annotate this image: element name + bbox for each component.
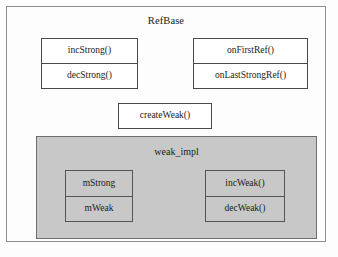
diagram-canvas: RefBase incStrong() decStrong() onFirstR… (0, 0, 338, 257)
member-box-weak-impl-fields: mStrong mWeak (65, 170, 133, 222)
member-row-onlaststrongref: onLastStrongRef() (194, 63, 307, 88)
weak-impl-class-panel: weak_impl mStrong mWeak incWeak() decWea… (36, 136, 317, 239)
weak-impl-class-title: weak_impl (37, 146, 316, 157)
member-box-strong-ref-ops: incStrong() decStrong() (41, 38, 138, 89)
member-row-mstrong: mStrong (66, 171, 132, 196)
member-row-onfirstref: onFirstRef() (194, 39, 307, 63)
member-row-decweak: decWeak() (206, 196, 284, 222)
member-box-weak-ref-ops: incWeak() decWeak() (205, 170, 285, 222)
member-row-incweak: incWeak() (206, 171, 284, 196)
member-row-createweak: createWeak() (119, 104, 211, 128)
member-box-create-weak-op: createWeak() (118, 103, 212, 129)
refbase-class-box: RefBase incStrong() decStrong() onFirstR… (6, 6, 326, 242)
member-row-decstrong: decStrong() (42, 63, 137, 88)
member-row-mweak: mWeak (66, 196, 132, 222)
member-row-incstrong: incStrong() (42, 39, 137, 63)
refbase-class-title: RefBase (7, 15, 325, 26)
member-box-on-ref-callbacks: onFirstRef() onLastStrongRef() (193, 38, 308, 89)
